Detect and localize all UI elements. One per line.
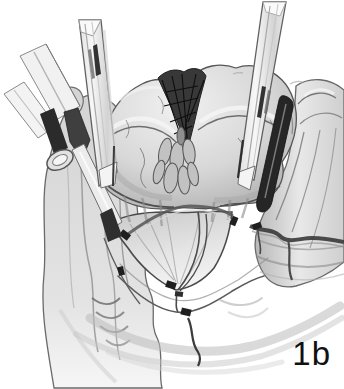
surgical-illustration [0,0,344,389]
surgical-clip [180,307,191,316]
ligature-tail-center [188,318,200,366]
figure-label: 1b [292,337,331,370]
figure-panel: 1b [0,0,344,389]
